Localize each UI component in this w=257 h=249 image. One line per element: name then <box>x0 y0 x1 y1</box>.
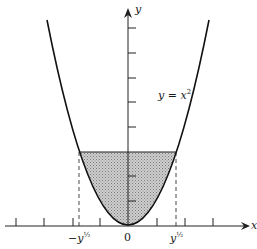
parabola-diagram: y x y = x2 0 −y½ y½ <box>0 0 257 249</box>
neg-root-exponent: ½ <box>83 231 90 239</box>
equation-label: y = x2 <box>158 89 191 101</box>
equation-text: y = x <box>158 89 187 102</box>
pos-root-exponent: ½ <box>176 231 183 239</box>
y-axis-label: y <box>135 4 141 15</box>
x-axis-label: x <box>251 220 257 231</box>
pos-root-label: y½ <box>170 232 183 244</box>
diagram-canvas <box>0 0 257 249</box>
equation-exponent: 2 <box>187 88 191 96</box>
neg-root-label: −y½ <box>68 232 90 244</box>
neg-root-text: −y <box>68 232 83 245</box>
origin-label: 0 <box>124 232 131 243</box>
